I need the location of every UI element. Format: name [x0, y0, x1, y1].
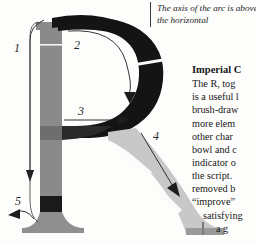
axis-caption-line-1: The axis of the arc is above — [157, 2, 256, 14]
letter-bowl — [52, 15, 166, 140]
body-line: “improve” — [192, 195, 256, 208]
body-line: other char — [192, 130, 256, 143]
letterform-diagram-page: 1 2 3 4 5 The axis of the arc is above t… — [0, 0, 256, 245]
callout-label-4: 4 — [153, 130, 159, 142]
body-line: satisfying — [192, 209, 256, 222]
stem-outline — [30, 22, 38, 222]
section-heading: Imperial C — [192, 64, 256, 76]
body-line: more elem — [192, 117, 256, 130]
axis-caption-line-2: the horizontal — [157, 14, 256, 26]
body-line: removed b — [192, 182, 256, 195]
callout-label-1: 1 — [14, 42, 20, 54]
callout-label-3: 3 — [78, 105, 84, 117]
callout-5-arrow — [8, 209, 34, 219]
body-line: bowl and c — [192, 143, 256, 156]
body-line: is a useful l — [192, 90, 256, 103]
body-line: The R, tog — [192, 77, 256, 90]
body-line: the script. — [192, 169, 256, 182]
article-column: Imperial C The R, tog is a useful l brus… — [192, 64, 256, 235]
callout-label-2: 2 — [74, 39, 80, 51]
body-line: brush-draw — [192, 103, 256, 116]
article-body: The R, tog is a useful l brush-draw more… — [192, 77, 256, 235]
body-line: a g — [192, 222, 256, 235]
body-line: indicator o — [192, 156, 256, 169]
callout-label-5: 5 — [15, 195, 21, 207]
axis-caption: The axis of the arc is above the horizon… — [150, 2, 256, 27]
callout-3-arrow — [64, 115, 130, 125]
